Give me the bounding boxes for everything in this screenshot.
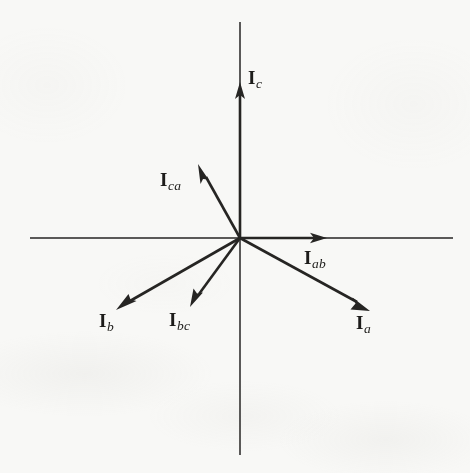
phasor-vector-iab (240, 233, 327, 243)
phasor-shaft-ica (206, 177, 240, 238)
phasor-label-ia: Ia (356, 313, 371, 336)
phasor-label-ia-main: I (356, 312, 364, 333)
phasor-label-ica-sub: ca (168, 178, 181, 193)
phasor-label-ib-main: I (99, 310, 107, 331)
phasor-label-ica-main: I (160, 169, 168, 190)
arrow-head-ib (116, 294, 137, 310)
phasor-vector-ic (235, 82, 245, 238)
phasor-label-iab-sub: ab (312, 256, 326, 271)
phasor-diagram-figure: Ic Ica Iab Ia Ibc Ib (0, 0, 470, 473)
phasor-label-ic: Ic (248, 68, 262, 91)
phasor-label-ibc: Ibc (169, 310, 190, 333)
phasor-label-ibc-sub: bc (177, 318, 190, 333)
phasor-label-ic-sub: c (256, 76, 262, 91)
phasor-label-ic-main: I (248, 67, 256, 88)
phasor-label-ia-sub: a (364, 321, 371, 336)
phasor-label-ib-sub: b (107, 319, 114, 334)
phasor-diagram-canvas (0, 0, 470, 473)
phasor-label-iab: Iab (304, 248, 326, 271)
phasor-label-iab-main: I (304, 247, 312, 268)
phasor-shaft-ib (130, 238, 240, 301)
phasor-vector-ib (116, 238, 240, 310)
phasor-label-ibc-main: I (169, 309, 177, 330)
phasor-vector-ibc (190, 238, 240, 307)
phasor-label-ica: Ica (160, 170, 181, 193)
phasor-label-ib: Ib (99, 311, 114, 334)
phasor-shaft-ibc (199, 238, 240, 294)
phasor-vector-ica (198, 164, 240, 238)
phasor-shaft-ia (240, 238, 357, 302)
